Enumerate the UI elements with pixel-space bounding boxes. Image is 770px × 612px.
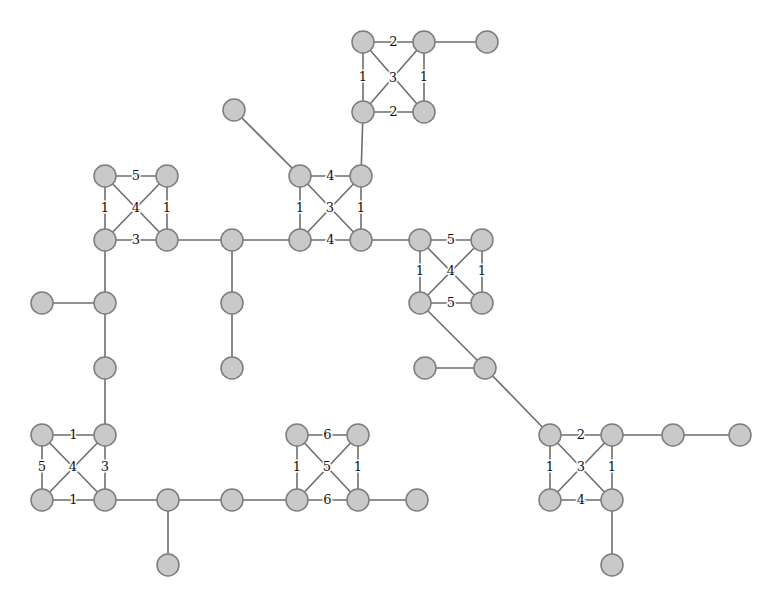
graph-node[interactable] bbox=[94, 292, 116, 314]
edge-weight-label: 3 bbox=[101, 459, 109, 474]
edge-weight-label: 5 bbox=[447, 295, 455, 310]
edge-weight-label: 4 bbox=[577, 492, 585, 507]
edge-weight-label: 1 bbox=[608, 459, 616, 474]
graph-node[interactable] bbox=[474, 357, 496, 379]
edge-weight-label: 4 bbox=[132, 200, 140, 215]
graph-node[interactable] bbox=[221, 357, 243, 379]
edge-weight-label: 3 bbox=[577, 459, 585, 474]
edge-weight-label: 1 bbox=[359, 69, 367, 84]
graph-node[interactable] bbox=[94, 424, 116, 446]
graph-node[interactable] bbox=[539, 489, 561, 511]
graph-node[interactable] bbox=[350, 165, 372, 187]
graph-node[interactable] bbox=[352, 31, 374, 53]
graph-node[interactable] bbox=[601, 554, 623, 576]
graph-node[interactable] bbox=[476, 31, 498, 53]
graph-node[interactable] bbox=[347, 489, 369, 511]
graph-node[interactable] bbox=[286, 424, 308, 446]
graph-node[interactable] bbox=[289, 229, 311, 251]
edge-weight-label: 5 bbox=[447, 232, 455, 247]
edge-weight-label: 1 bbox=[101, 200, 109, 215]
edge-weight-label: 3 bbox=[132, 232, 140, 247]
edge-labels-layer: 21123411435113415314611655115421143 bbox=[38, 34, 616, 507]
edge-weight-label: 1 bbox=[357, 200, 365, 215]
graph-node[interactable] bbox=[157, 489, 179, 511]
edge-weight-label: 5 bbox=[132, 168, 140, 183]
graph-edge bbox=[234, 110, 300, 176]
edge-weight-label: 1 bbox=[354, 459, 362, 474]
edge-weight-label: 1 bbox=[69, 492, 77, 507]
graph-node[interactable] bbox=[471, 229, 493, 251]
graph-node[interactable] bbox=[31, 292, 53, 314]
edge-weight-label: 1 bbox=[69, 427, 77, 442]
edge-weight-label: 1 bbox=[416, 263, 424, 278]
graph-node[interactable] bbox=[221, 489, 243, 511]
edge-weight-label: 3 bbox=[389, 70, 397, 85]
edge-weight-label: 4 bbox=[326, 232, 334, 247]
graph-node[interactable] bbox=[94, 489, 116, 511]
graph-node[interactable] bbox=[409, 292, 431, 314]
graph-node[interactable] bbox=[406, 489, 428, 511]
graph-node[interactable] bbox=[289, 165, 311, 187]
edge-weight-label: 4 bbox=[326, 168, 334, 183]
graph-canvas: 21123411435113415314611655115421143 bbox=[0, 0, 770, 612]
graph-node[interactable] bbox=[221, 292, 243, 314]
graph-node[interactable] bbox=[414, 357, 436, 379]
graph-node[interactable] bbox=[94, 165, 116, 187]
graph-node[interactable] bbox=[662, 424, 684, 446]
edge-weight-label: 2 bbox=[577, 427, 585, 442]
graph-node[interactable] bbox=[539, 424, 561, 446]
graph-node[interactable] bbox=[413, 101, 435, 123]
graph-node[interactable] bbox=[156, 165, 178, 187]
graph-node[interactable] bbox=[94, 357, 116, 379]
graph-node[interactable] bbox=[729, 424, 751, 446]
edges-layer bbox=[42, 42, 740, 565]
edge-weight-label: 6 bbox=[323, 492, 331, 507]
edge-weight-label: 1 bbox=[546, 459, 554, 474]
edge-weight-label: 3 bbox=[326, 200, 334, 215]
edge-weight-label: 2 bbox=[389, 104, 397, 119]
graph-node[interactable] bbox=[157, 554, 179, 576]
graph-node[interactable] bbox=[350, 229, 372, 251]
edge-weight-label: 1 bbox=[478, 263, 486, 278]
graph-node[interactable] bbox=[286, 489, 308, 511]
graph-node[interactable] bbox=[413, 31, 435, 53]
graph-node[interactable] bbox=[352, 101, 374, 123]
graph-diagram: 21123411435113415314611655115421143 bbox=[0, 0, 770, 612]
graph-node[interactable] bbox=[94, 229, 116, 251]
edge-weight-label: 4 bbox=[447, 263, 455, 278]
graph-node[interactable] bbox=[31, 489, 53, 511]
graph-node[interactable] bbox=[601, 424, 623, 446]
graph-node[interactable] bbox=[471, 292, 493, 314]
graph-node[interactable] bbox=[409, 229, 431, 251]
graph-node[interactable] bbox=[156, 229, 178, 251]
edge-weight-label: 2 bbox=[389, 34, 397, 49]
graph-edge bbox=[485, 368, 550, 435]
edge-weight-label: 5 bbox=[38, 459, 46, 474]
graph-node[interactable] bbox=[31, 424, 53, 446]
graph-node[interactable] bbox=[221, 229, 243, 251]
edge-weight-label: 1 bbox=[293, 459, 301, 474]
graph-node[interactable] bbox=[601, 489, 623, 511]
graph-node[interactable] bbox=[347, 424, 369, 446]
edge-weight-label: 6 bbox=[323, 427, 331, 442]
edge-weight-label: 1 bbox=[296, 200, 304, 215]
edge-weight-label: 4 bbox=[69, 459, 77, 474]
edge-weight-label: 1 bbox=[420, 69, 428, 84]
graph-node[interactable] bbox=[223, 99, 245, 121]
edge-weight-label: 5 bbox=[323, 459, 331, 474]
edge-weight-label: 1 bbox=[163, 200, 171, 215]
